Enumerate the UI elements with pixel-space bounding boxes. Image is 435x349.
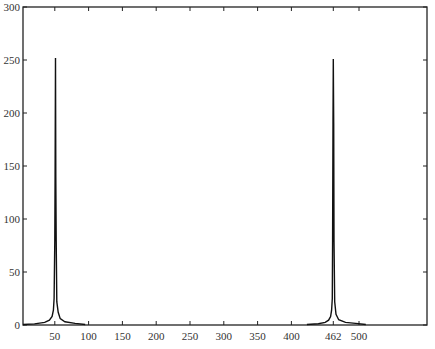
x-tick-label: 150 [114,330,131,342]
axes-frame [23,7,427,325]
spectrum-chart: 5010015020025030035040046250005010015020… [0,0,435,349]
x-tick-label: 100 [80,330,97,342]
x-tick-label: 300 [216,330,233,342]
y-tick-label: 300 [4,1,21,13]
y-tick-label: 0 [15,319,21,331]
x-tick-label: 400 [283,330,300,342]
plot-frame [23,7,427,325]
series-line-spectrum-high [307,59,366,325]
y-tick-label: 50 [9,266,21,278]
x-tick-label: 462 [325,330,342,342]
data-series [23,58,366,325]
x-tick-label: 350 [249,330,266,342]
y-tick-label: 200 [4,107,21,119]
y-tick-label: 150 [4,160,21,172]
x-tick-label: 50 [49,330,61,342]
x-tick-label: 200 [148,330,165,342]
series-line-spectrum-low [23,58,85,325]
x-tick-label: 250 [182,330,199,342]
y-tick-label: 250 [4,54,21,66]
axis-ticks: 5010015020025030035040046250005010015020… [4,1,428,342]
y-tick-label: 100 [4,213,21,225]
x-tick-label: 500 [351,330,368,342]
